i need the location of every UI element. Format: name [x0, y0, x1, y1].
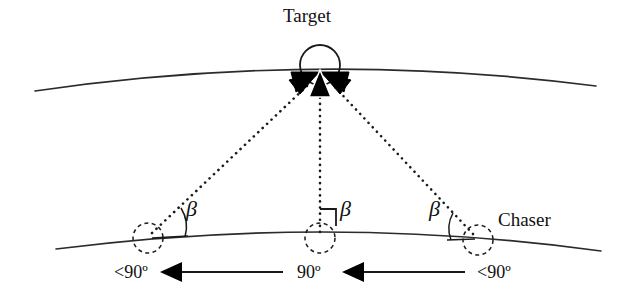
- right-angle-marker-middle: [320, 209, 336, 226]
- chaser-label: Chaser: [498, 210, 551, 229]
- direction-arrow-left-head: [160, 262, 182, 282]
- angle-range-label-left: <90º: [114, 263, 148, 281]
- direction-arrow-right-head: [342, 262, 364, 282]
- beta-label-right: β: [429, 198, 440, 220]
- beta-angle-baseline-left: [152, 236, 188, 238]
- target-label: Target: [283, 6, 331, 25]
- chaser-position-circle-middle: [305, 223, 335, 253]
- beta-angle-baseline-right: [447, 239, 475, 240]
- diagram-canvas: Target Chaser β β β <90º 90º <90º: [0, 0, 624, 300]
- direction-arrow-left: [160, 262, 283, 282]
- diagram-vector-layer: [0, 0, 624, 300]
- lower-orbit-arc: [56, 232, 601, 251]
- direction-arrow-right: [342, 262, 465, 282]
- angle-range-label-middle: 90º: [297, 263, 321, 281]
- target-arrowhead-group: [289, 70, 351, 97]
- beta-label-middle: β: [340, 198, 351, 220]
- angle-range-label-right: <90º: [477, 263, 511, 281]
- beta-label-left: β: [186, 198, 197, 220]
- line-of-sight-right: [333, 85, 473, 234]
- line-of-sight-left: [152, 85, 308, 233]
